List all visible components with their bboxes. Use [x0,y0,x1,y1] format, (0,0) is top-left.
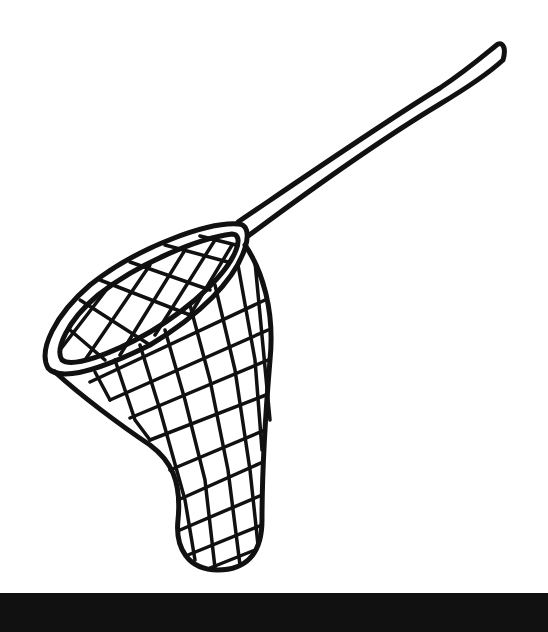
net-bag [55,245,271,570]
net-handle [238,44,504,236]
fishing-net-illustration: Fishing net line drawing [0,0,548,593]
bottom-bar [0,593,548,632]
